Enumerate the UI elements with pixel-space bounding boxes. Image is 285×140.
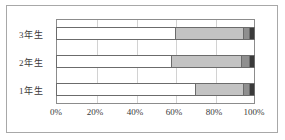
category-label-2nd-year: 2年生	[8, 56, 54, 69]
bar-segment-3rd-year-s4[interactable]	[249, 27, 255, 40]
bar-segment-2nd-year-s2[interactable]	[171, 55, 241, 68]
xtick-label-60: 60%	[154, 107, 194, 117]
xtick-label-80: 80%	[194, 107, 234, 117]
bar-segment-3rd-year-s1[interactable]	[56, 27, 175, 40]
bar-1st-year[interactable]	[56, 83, 255, 96]
bar-segment-2nd-year-s3[interactable]	[241, 55, 249, 68]
stacked-bar-chart: 3年生 2年生 1年生 0% 20% 40% 60% 80% 100%	[0, 0, 285, 140]
bar-segment-1st-year-s4[interactable]	[249, 83, 255, 96]
bar-segment-1st-year-s2[interactable]	[195, 83, 243, 96]
xtick-label-20: 20%	[75, 107, 115, 117]
bar-3rd-year[interactable]	[56, 27, 255, 40]
bar-segment-2nd-year-s4[interactable]	[249, 55, 255, 68]
xtick-label-100: 100%	[234, 107, 274, 117]
bar-segment-3rd-year-s2[interactable]	[175, 27, 243, 40]
bar-segment-2nd-year-s1[interactable]	[56, 55, 171, 68]
xtick-label-40: 40%	[115, 107, 155, 117]
category-label-1st-year: 1年生	[8, 84, 54, 97]
category-label-3rd-year: 3年生	[8, 28, 54, 41]
bar-segment-1st-year-s1[interactable]	[56, 83, 195, 96]
bar-row-2nd-year	[56, 55, 255, 68]
bar-row-3rd-year	[56, 27, 255, 40]
xtick-label-0: 0%	[36, 107, 76, 117]
bar-2nd-year[interactable]	[56, 55, 255, 68]
bar-row-1st-year	[56, 83, 255, 96]
